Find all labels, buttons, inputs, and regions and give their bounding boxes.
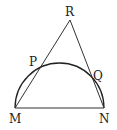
label-Q: Q — [93, 69, 103, 83]
geometry-figure: R P Q M N — [0, 0, 117, 130]
semicircle-MN — [15, 63, 104, 108]
label-R: R — [65, 5, 75, 19]
label-P: P — [29, 55, 37, 69]
label-M: M — [9, 112, 21, 126]
segment-MR — [15, 20, 70, 108]
label-N: N — [99, 112, 110, 126]
segment-RN — [70, 20, 104, 108]
